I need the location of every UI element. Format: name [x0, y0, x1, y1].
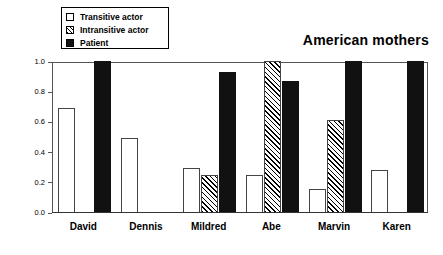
bar	[282, 81, 299, 212]
chart-legend: Transitive actor Intransitive actor Pati…	[61, 7, 169, 49]
chart-title: American mothers	[303, 32, 429, 48]
legend-item-transitive-actor: Transitive actor	[66, 11, 164, 23]
legend-label: Transitive actor	[80, 12, 143, 22]
hatched-square-icon	[66, 26, 74, 34]
bars-layer	[53, 63, 427, 212]
x-axis-label: Marvin	[318, 221, 350, 232]
bar	[345, 61, 362, 212]
bar	[183, 168, 200, 212]
bar	[58, 108, 75, 212]
x-axis-label: Mildred	[191, 221, 227, 232]
bar	[94, 61, 111, 212]
y-tick-label: 0.8	[23, 87, 45, 96]
legend-label: Patient	[80, 38, 108, 48]
bar	[219, 72, 236, 212]
open-square-icon	[66, 13, 74, 21]
legend-label: Intransitive actor	[80, 25, 149, 35]
x-axis-label: Dennis	[129, 221, 162, 232]
x-axis-label: Abe	[262, 221, 281, 232]
x-axis-label: Karen	[382, 221, 410, 232]
y-tick-label: 0.4	[23, 148, 45, 157]
solid-square-icon	[66, 39, 74, 47]
y-tick-label: 1.0	[23, 57, 45, 66]
bar	[407, 61, 424, 212]
bar	[309, 189, 326, 212]
y-tick-label: 0.6	[23, 117, 45, 126]
bar	[246, 175, 263, 212]
x-axis-label: David	[70, 221, 97, 232]
bar	[264, 61, 281, 212]
bar	[201, 175, 218, 212]
plot-area	[52, 62, 428, 213]
bar	[121, 138, 138, 212]
y-tick-label: 0.0	[23, 208, 45, 217]
bar	[327, 120, 344, 212]
legend-item-patient: Patient	[66, 37, 164, 49]
bar	[371, 170, 388, 212]
y-tick-label: 0.2	[23, 178, 45, 187]
legend-item-intransitive-actor: Intransitive actor	[66, 24, 164, 36]
